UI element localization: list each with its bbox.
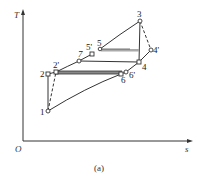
figure-caption: (a) <box>94 163 104 173</box>
s-axis-arrow-icon <box>187 139 193 143</box>
point-2 <box>46 72 50 76</box>
point-6p <box>124 70 128 74</box>
process-5-3 <box>100 21 140 49</box>
point-2p <box>54 70 58 74</box>
band-2p-6 <box>56 71 122 74</box>
t-axis-arrow-icon <box>21 9 25 15</box>
line-7-4 <box>79 61 139 62</box>
process-6-1 <box>48 74 121 111</box>
process-3-4 <box>139 21 140 62</box>
label-5p: 5' <box>86 42 93 52</box>
t-axis-label: T <box>14 10 20 20</box>
point-7 <box>77 59 81 63</box>
label-6p: 6' <box>129 70 136 80</box>
label-1: 1 <box>40 107 45 117</box>
label-7: 7 <box>78 49 83 59</box>
point-3 <box>138 19 142 23</box>
label-4: 4 <box>142 62 147 72</box>
t-s-diagram: T s O 1 2 2' 7 5' 5 3 4' 4 6 6' (a) <box>0 0 205 186</box>
process-3-4p <box>140 21 151 50</box>
label-2p: 2' <box>53 60 60 70</box>
label-5: 5 <box>97 38 102 48</box>
state-points <box>46 19 153 113</box>
label-3: 3 <box>137 9 142 19</box>
label-4p: 4' <box>153 45 160 55</box>
point-1 <box>46 109 50 113</box>
label-6: 6 <box>121 75 126 85</box>
point-4 <box>137 60 141 64</box>
cycle-lines <box>48 21 151 111</box>
label-2: 2 <box>40 69 45 79</box>
point-5p <box>90 52 94 56</box>
origin-label: O <box>15 144 22 154</box>
process-1-2p <box>48 72 56 111</box>
s-axis-label: s <box>185 144 189 154</box>
